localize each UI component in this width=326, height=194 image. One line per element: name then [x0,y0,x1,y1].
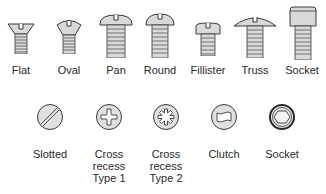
fillister-head-screw-icon [193,20,223,56]
drive-type-clutch-label: Clutch [202,148,246,160]
cross-recess-type2-icon [152,103,180,131]
head-type-fillister-label: Fillister [186,64,230,76]
head-type-truss-label: Truss [233,64,277,76]
head-type-pan-label: Pan [96,64,136,76]
drive-type-slotted-label: Slotted [28,148,72,160]
head-type-round [142,12,178,58]
head-type-flat [6,12,36,54]
round-head-screw-icon [142,12,178,58]
head-type-round-label: Round [140,64,180,76]
head-type-pan [96,12,136,58]
head-type-socket-label: Socket [279,64,325,76]
socket-drive-icon [268,103,296,131]
drive-type-cross-recess-2 [152,103,180,131]
head-type-oval [54,12,84,54]
drive-type-clutch [210,103,238,131]
head-type-oval-label: Oval [50,64,88,76]
socket-head-screw-icon [288,6,318,60]
head-type-socket [288,6,318,60]
truss-head-screw-icon [232,12,278,58]
pan-head-screw-icon [96,12,136,58]
flat-head-screw-icon [6,12,36,54]
clutch-drive-icon [210,103,238,131]
drive-type-cross-recess-2-label: Cross recess Type 2 [146,148,186,184]
drive-type-slotted [36,103,64,131]
drive-type-socket-label: Socket [258,148,306,160]
drive-type-socket [268,103,296,131]
head-type-flat-label: Flat [2,64,40,76]
slotted-drive-icon [36,103,64,131]
oval-head-screw-icon [54,12,84,54]
drive-type-cross-recess-1-label: Cross recess Type 1 [89,148,129,184]
cross-recess-type1-icon [95,103,123,131]
head-type-fillister [193,20,223,56]
drive-type-cross-recess-1 [95,103,123,131]
head-type-truss [232,12,278,58]
